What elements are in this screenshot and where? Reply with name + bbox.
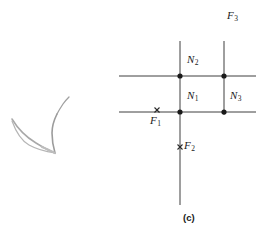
sketch-stroke <box>52 114 57 153</box>
node-dots <box>177 73 226 114</box>
sketch-group <box>12 97 69 153</box>
node-dot-N1 <box>177 109 182 114</box>
sketch-stroke <box>12 119 55 153</box>
node-label-N3-sub: 3 <box>238 94 242 103</box>
face-label-F3-sub: 3 <box>234 14 238 23</box>
figure-graphics <box>0 0 261 235</box>
node-dot-intersection <box>221 73 226 78</box>
face-label-F3: F3 <box>227 9 237 21</box>
node-label-N3: N3 <box>230 89 241 101</box>
sketch-stroke <box>57 97 69 114</box>
face-label-F1-sub: 1 <box>157 119 161 128</box>
face-label-F2-text: F <box>184 139 191 151</box>
face-label-F1-text: F <box>150 114 157 126</box>
node-dot-N3 <box>221 109 226 114</box>
node-label-N2-text: N <box>187 53 194 65</box>
figure-container: N2 N1 N3 F1 F2 F3 (c) <box>0 0 261 235</box>
node-label-N1-sub: 1 <box>195 94 199 103</box>
node-label-N2: N2 <box>187 53 198 65</box>
grid-lines <box>119 41 256 205</box>
face-label-F1: F1 <box>150 114 160 126</box>
figure-caption: (c) <box>183 212 195 223</box>
node-dot-N2 <box>177 73 182 78</box>
face-label-F3-text: F <box>227 9 234 21</box>
node-label-N2-sub: 2 <box>195 58 199 67</box>
node-label-N1-text: N <box>187 89 194 101</box>
node-label-N3-text: N <box>230 89 237 101</box>
sketch-stroke <box>12 121 55 153</box>
face-label-F2: F2 <box>184 139 194 151</box>
face-label-F2-sub: 2 <box>191 144 195 153</box>
node-label-N1: N1 <box>187 89 198 101</box>
